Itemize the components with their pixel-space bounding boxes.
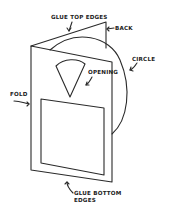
label-fold: FOLD bbox=[10, 91, 28, 97]
folded-card-diagram bbox=[0, 0, 169, 216]
label-glue-bottom: GLUE BOTTOM bbox=[74, 190, 122, 196]
front-panel bbox=[31, 46, 112, 182]
label-circle: CIRCLE bbox=[132, 56, 155, 62]
label-back: BACK bbox=[115, 25, 133, 31]
label-glue-bottom-edges: EDGES bbox=[74, 197, 96, 203]
window bbox=[41, 99, 104, 175]
opening-wedge bbox=[56, 60, 85, 97]
label-glue-top-edges: GLUE TOP EDGES bbox=[51, 14, 108, 20]
label-opening: OPENING bbox=[88, 69, 118, 75]
back-panel bbox=[31, 22, 106, 48]
